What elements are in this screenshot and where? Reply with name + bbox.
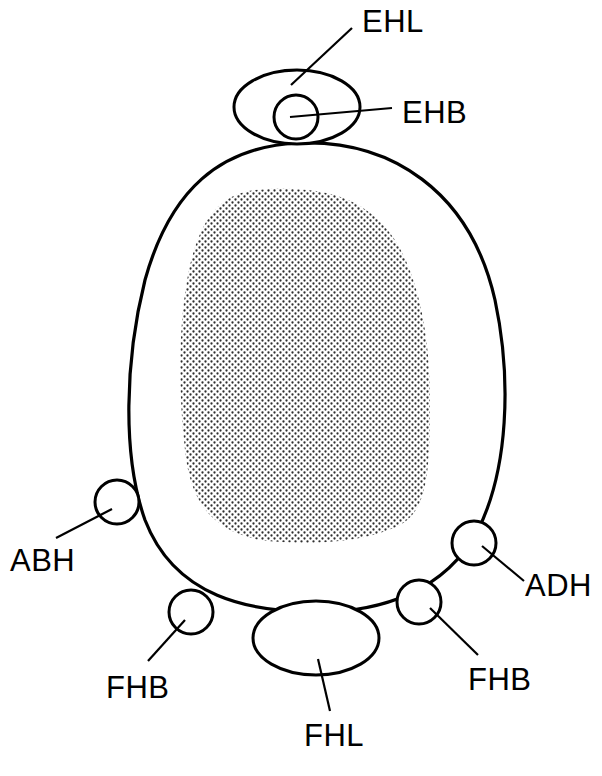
label-fhl: FHL	[304, 718, 364, 753]
label-ehb: EHB	[402, 95, 467, 130]
label-abh: ABH	[10, 543, 75, 578]
adh-circle	[452, 521, 496, 565]
adh-leader-line	[482, 546, 524, 581]
abh-leader-line	[56, 509, 112, 538]
fhb-right-leader-line	[430, 608, 478, 655]
label-ehl: EHL	[362, 4, 424, 39]
fhb-left-circle	[169, 590, 213, 634]
fhl-ellipse	[253, 601, 379, 675]
fhb-left-leader-line	[148, 620, 185, 661]
muscle-cross-section-diagram: EHL EHB ABH FHB FHL FHB ADH	[0, 0, 602, 776]
label-adh: ADH	[525, 568, 592, 603]
label-fhb-right: FHB	[468, 662, 532, 697]
fhb-right-circle	[397, 580, 441, 624]
label-fhb-left: FHB	[106, 670, 170, 705]
stippled-region	[180, 189, 430, 543]
abh-circle	[95, 480, 139, 524]
